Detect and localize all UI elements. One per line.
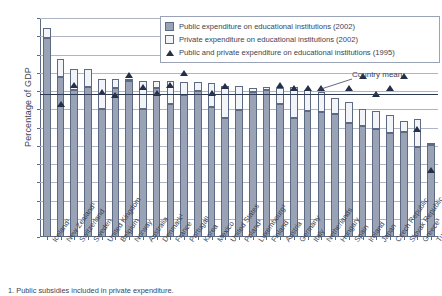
x-axis-label: Poland¹ <box>243 239 249 243</box>
x-tick-mark <box>184 237 185 240</box>
legend-item-public: Public expenditure on educational instit… <box>165 20 435 33</box>
bar-group[interactable] <box>139 18 147 237</box>
x-tick-mark <box>61 237 62 240</box>
x-axis-label: Slovak Republic <box>408 239 414 243</box>
bar-group[interactable] <box>112 18 120 237</box>
marker-1995 <box>304 85 312 91</box>
private-swatch-icon <box>165 35 174 44</box>
bar-segment-private[interactable] <box>427 143 435 145</box>
x-axis-label: Iceland¹ <box>51 239 57 243</box>
x-axis-label: Germany <box>298 239 304 243</box>
marker-1995 <box>276 82 284 88</box>
x-axis-label: Australia <box>147 239 153 243</box>
x-tick-mark <box>253 237 254 240</box>
bar-group[interactable] <box>57 18 65 237</box>
bar-segment-private[interactable] <box>84 69 92 87</box>
bar-segment-private[interactable] <box>400 121 408 132</box>
legend-item-marker: Public and private expenditure on educat… <box>165 46 435 59</box>
country-mean-label: Country mean <box>352 70 402 79</box>
x-axis-label: New Zealand¹ <box>65 239 71 243</box>
bar-segment-private[interactable] <box>221 86 229 118</box>
chart-legend: Public expenditure on educational instit… <box>160 16 440 63</box>
bar-segment-private[interactable] <box>112 79 120 88</box>
bar-segment-public[interactable] <box>153 88 161 237</box>
x-axis-label: Spain <box>353 239 359 243</box>
x-axis-label: Turkey <box>435 239 441 243</box>
bar-segment-private[interactable] <box>43 28 51 38</box>
x-axis-label: Hungary <box>339 239 345 243</box>
bar-segment-public[interactable] <box>194 91 202 237</box>
bar-segment-public[interactable] <box>112 88 120 237</box>
bar-segment-private[interactable] <box>235 86 243 110</box>
bar-segment-private[interactable] <box>194 82 202 91</box>
marker-1995 <box>57 101 65 107</box>
bar-segment-public[interactable] <box>70 90 78 237</box>
bar-group[interactable] <box>43 18 51 237</box>
bar-segment-public[interactable] <box>167 104 175 237</box>
x-tick-mark <box>198 237 199 240</box>
x-tick-mark <box>376 237 377 240</box>
x-axis-label: Mexico <box>216 239 222 243</box>
y-tick-mark <box>37 36 40 37</box>
x-tick-mark <box>404 237 405 240</box>
x-axis-label: Italy <box>312 239 318 243</box>
x-tick-mark <box>129 237 130 240</box>
chart-figure: Percentage of GDP 0.00.51.01.52.02.53.03… <box>0 0 442 296</box>
x-tick-mark <box>335 237 336 240</box>
x-tick-mark <box>239 237 240 240</box>
x-axis-label: Korea <box>202 239 208 243</box>
marker-1995 <box>427 167 435 173</box>
x-tick-mark <box>266 237 267 240</box>
bar-segment-private[interactable] <box>345 102 353 123</box>
x-axis-label: Japan <box>380 239 386 243</box>
legend-item-private: Private expenditure on educational insti… <box>165 33 435 46</box>
x-axis-label: Belgium <box>119 239 125 243</box>
bar-segment-private[interactable] <box>153 81 161 88</box>
bar-group[interactable] <box>70 18 78 237</box>
marker-1995 <box>413 126 421 132</box>
bar-segment-private[interactable] <box>372 111 380 129</box>
y-tick-mark <box>37 237 40 238</box>
bar-segment-private[interactable] <box>318 92 326 111</box>
x-axis-label: Greece¹ <box>421 239 427 243</box>
bar-segment-private[interactable] <box>57 59 65 77</box>
x-tick-mark <box>115 237 116 240</box>
bar-segment-private[interactable] <box>290 87 298 118</box>
y-tick-mark <box>37 55 40 56</box>
x-axis-label: France <box>174 239 180 243</box>
x-axis-label: Ireland <box>367 239 373 243</box>
x-tick-mark <box>390 237 391 240</box>
marker-1995 <box>221 83 229 89</box>
bar-segment-public[interactable] <box>263 90 271 237</box>
x-axis-label: Netherlands <box>325 239 331 243</box>
y-tick-mark <box>37 219 40 220</box>
x-tick-mark <box>308 237 309 240</box>
bar-segment-private[interactable] <box>359 109 367 126</box>
y-tick-mark <box>37 128 40 129</box>
bar-segment-private[interactable] <box>331 98 339 113</box>
x-axis-label: Finland <box>270 239 276 243</box>
bar-group[interactable] <box>98 18 106 237</box>
bar-segment-private[interactable] <box>263 87 271 90</box>
marker-1995 <box>111 92 119 98</box>
bar-segment-public[interactable] <box>43 38 51 237</box>
x-axis-label: Austria <box>284 239 290 243</box>
x-tick-mark <box>349 237 350 240</box>
marker-1995 <box>166 82 174 88</box>
x-axis-labels: Iceland¹New Zealand¹SwitzerlandSwedenUni… <box>40 239 442 291</box>
y-axis-title: Percentage of GDP <box>23 27 33 187</box>
y-tick-mark <box>37 182 40 183</box>
bar-segment-private[interactable] <box>125 79 133 81</box>
legend-label-private: Private expenditure on educational insti… <box>179 35 358 44</box>
bar-segment-private[interactable] <box>249 88 257 92</box>
x-tick-mark <box>363 237 364 240</box>
marker-1995 <box>125 72 133 78</box>
x-tick-mark <box>431 237 432 240</box>
x-tick-mark <box>88 237 89 240</box>
bar-segment-private[interactable] <box>276 88 284 104</box>
bar-segment-private[interactable] <box>386 115 394 133</box>
marker-1995 <box>180 70 188 76</box>
triangle-marker-icon <box>165 48 174 57</box>
bar-segment-private[interactable] <box>414 119 422 146</box>
x-axis-label: Switzerland <box>78 239 84 243</box>
